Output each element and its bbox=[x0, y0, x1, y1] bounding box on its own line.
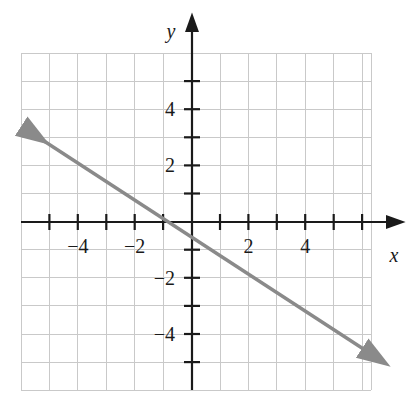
y-tick-label: 2 bbox=[165, 154, 175, 176]
y-tick-label: −2 bbox=[154, 267, 175, 289]
x-tick-label: 4 bbox=[300, 235, 310, 257]
x-axis-label: x bbox=[389, 244, 399, 266]
x-tick-label: −2 bbox=[124, 235, 145, 257]
x-tick-labels: −4 −2 2 4 bbox=[67, 235, 310, 257]
y-tick-label: −4 bbox=[154, 323, 175, 345]
graph-figure: −4 −2 2 4 4 2 −2 −4 x y bbox=[0, 0, 414, 407]
y-tick-label: 4 bbox=[165, 98, 175, 120]
coordinate-plane-svg: −4 −2 2 4 4 2 −2 −4 x y bbox=[0, 0, 414, 407]
x-tick-label: 2 bbox=[243, 235, 253, 257]
y-axis-label: y bbox=[165, 20, 176, 43]
x-tick-label: −4 bbox=[67, 235, 88, 257]
axes bbox=[21, 30, 388, 390]
